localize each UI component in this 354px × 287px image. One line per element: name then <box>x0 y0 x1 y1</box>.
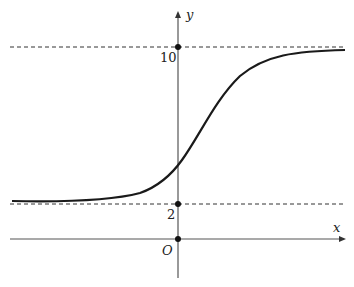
y-axis-label: y <box>186 8 193 21</box>
origin-label: O <box>162 244 173 257</box>
x-axis-label: x <box>333 221 340 234</box>
point-y2 <box>175 201 181 207</box>
y-axis-arrow-icon <box>175 11 181 18</box>
x-axis-arrow-icon <box>339 236 346 242</box>
point-origin <box>175 236 181 242</box>
tick-label-2: 2 <box>167 208 175 221</box>
tick-label-10: 10 <box>160 51 177 64</box>
chart-canvas <box>0 0 354 287</box>
